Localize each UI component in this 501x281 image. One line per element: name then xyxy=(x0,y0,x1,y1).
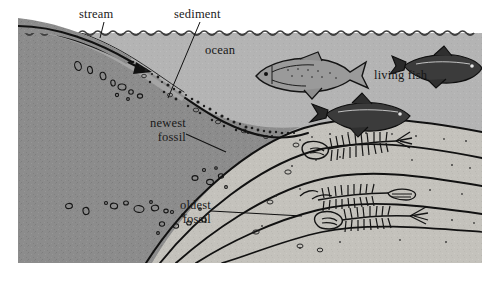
label-newest-fossil: newest fossil xyxy=(138,116,186,144)
label-ocean: ocean xyxy=(205,44,235,57)
scene xyxy=(18,18,482,263)
label-newest-fossil-line1: newest xyxy=(150,116,186,130)
label-oldest-fossil-line1: oldest xyxy=(180,198,211,212)
label-living-fish: living fish xyxy=(374,69,427,82)
label-stream: stream xyxy=(79,8,114,21)
label-sediment: sediment xyxy=(174,8,221,21)
label-newest-fossil-line2: fossil xyxy=(158,130,186,144)
label-oldest-fossil-line2: fossil xyxy=(183,212,211,226)
diagram-canvas xyxy=(0,0,501,281)
label-oldest-fossil: oldest fossil xyxy=(167,198,211,226)
fossil-layers-diagram: stream sediment ocean living fish newest… xyxy=(0,0,501,281)
